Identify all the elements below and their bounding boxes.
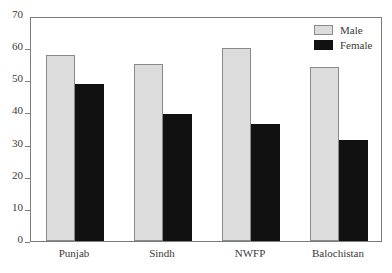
bar-chart: 010203040506070 PunjabSindhNWFPBalochist… [0, 0, 392, 273]
bar-nwfp-female [251, 124, 280, 241]
legend-label: Female [340, 39, 372, 51]
y-axis-tick-label: 10 [12, 202, 23, 213]
male-swatch [314, 25, 333, 35]
bar-balochistan-male [310, 67, 339, 241]
legend-label: Male [340, 24, 363, 36]
female-swatch [314, 40, 333, 50]
bar-sindh-male [134, 64, 163, 241]
bar-punjab-male [46, 55, 75, 241]
y-axis-tick-label: 30 [12, 138, 23, 149]
legend-item-female: Female [314, 37, 372, 52]
legend: MaleFemale [310, 18, 377, 56]
y-axis-tick-label: 60 [12, 41, 23, 52]
y-axis-tick-label: 0 [18, 234, 24, 245]
bar-punjab-female [75, 84, 104, 242]
y-axis-tick-label: 40 [12, 105, 23, 116]
y-axis-tick-label: 70 [12, 9, 23, 20]
bar-nwfp-male [222, 48, 251, 241]
legend-item-male: Male [314, 22, 372, 37]
y-axis-tick-label: 20 [12, 170, 23, 181]
bar-balochistan-female [339, 140, 368, 241]
bar-sindh-female [163, 114, 192, 241]
x-axis-label: NWFP [235, 247, 266, 260]
y-axis-tick-label: 50 [12, 73, 23, 84]
x-axis-label: Punjab [59, 247, 90, 260]
y-axis-tick-mark [25, 242, 30, 243]
x-axis-label: Balochistan [312, 247, 364, 260]
x-axis-label: Sindh [149, 247, 175, 260]
